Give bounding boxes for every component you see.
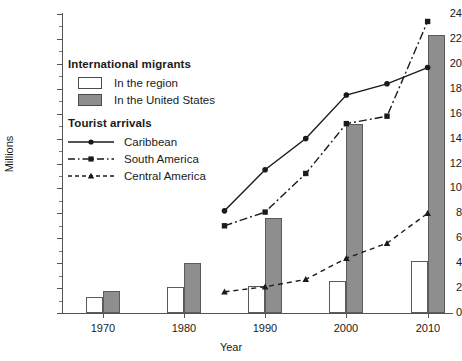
marker-caribbean bbox=[222, 208, 228, 214]
chart-container: Millions 0246810121416182022241970198019… bbox=[0, 0, 462, 361]
legend-label: Caribbean bbox=[124, 136, 177, 148]
x-axis-tick bbox=[428, 313, 429, 318]
marker-caribbean bbox=[344, 92, 350, 98]
x-axis-tick-label: 2000 bbox=[316, 322, 376, 334]
legend-item-central-america: Central America bbox=[68, 167, 283, 184]
x-axis-tick-label: 1970 bbox=[73, 322, 133, 334]
x-axis-tick-label: 1990 bbox=[235, 322, 295, 334]
marker-central-america bbox=[424, 210, 431, 216]
line-solid-circle-icon bbox=[68, 136, 114, 148]
x-axis-tick-label: 1980 bbox=[154, 322, 214, 334]
legend-spacer bbox=[68, 108, 283, 117]
marker-caribbean bbox=[384, 81, 390, 87]
line-central-america bbox=[225, 213, 428, 291]
x-axis-tick bbox=[103, 313, 104, 318]
marker-caribbean bbox=[425, 65, 431, 71]
legend-group-title-tourist: Tourist arrivals bbox=[68, 117, 283, 129]
marker-central-america bbox=[302, 276, 309, 282]
legend-group-title-migrants: International migrants bbox=[68, 58, 283, 70]
marker-south-america bbox=[384, 113, 389, 118]
x-axis-tick bbox=[184, 313, 185, 318]
y-axis-title: Millions bbox=[3, 84, 15, 224]
x-axis-line bbox=[62, 313, 453, 314]
chart-legend: International migrants In the region In … bbox=[68, 58, 283, 184]
legend-label: Central America bbox=[124, 170, 206, 182]
x-axis-tick bbox=[265, 313, 266, 318]
legend-label: South America bbox=[124, 153, 199, 165]
swatch-usa-icon bbox=[78, 94, 102, 106]
legend-item-in-the-region: In the region bbox=[68, 74, 283, 91]
swatch-region-icon bbox=[78, 77, 102, 89]
line-dashdot-square-icon bbox=[68, 153, 114, 165]
x-axis-tick bbox=[346, 313, 347, 318]
marker-south-america bbox=[425, 19, 430, 24]
marker-south-america bbox=[303, 171, 308, 176]
marker-south-america bbox=[344, 121, 349, 126]
marker-south-america bbox=[222, 223, 227, 228]
legend-item-south-america: South America bbox=[68, 150, 283, 167]
marker-south-america bbox=[262, 209, 267, 214]
legend-label: In the United States bbox=[114, 94, 215, 106]
y-axis-tick bbox=[57, 313, 62, 314]
x-axis-title: Year bbox=[0, 341, 462, 353]
legend-label: In the region bbox=[114, 77, 178, 89]
line-dashed-triangle-icon bbox=[68, 170, 114, 182]
legend-item-caribbean: Caribbean bbox=[68, 133, 283, 150]
legend-item-in-the-united-states: In the United States bbox=[68, 91, 283, 108]
marker-caribbean bbox=[303, 136, 309, 142]
x-axis-tick-label: 2010 bbox=[398, 322, 458, 334]
